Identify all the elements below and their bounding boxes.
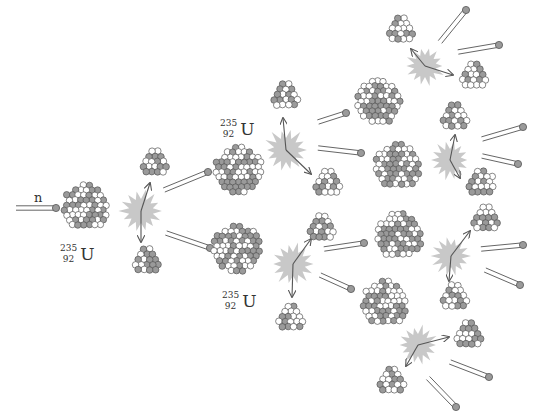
uranium-nucleus-u-g3-3 [375,211,424,258]
fission-fragment-11 [440,282,470,310]
uranium-nucleus-u-upper [213,144,264,195]
fission-flash-3 [406,49,443,86]
neutron-label: n [34,190,42,205]
fission-fragment-4 [307,213,336,241]
neutron-5 [324,239,368,251]
neutron-1 [163,168,211,192]
fission-fragment-12 [454,320,484,348]
neutron-8 [458,41,503,54]
neutron-3 [317,109,349,124]
fission-fragment-2 [271,81,301,109]
isotope-label-u-lower: 235 92 U [222,290,257,312]
atomic-number: 92 [220,129,237,140]
fission-fragment-9 [466,168,496,195]
fragment-arrow-group [141,49,470,366]
element-symbol: U [242,293,256,310]
neutron-7 [438,6,469,43]
uranium-nucleus-u-lower [211,223,263,274]
neutron-4 [318,146,365,157]
atomic-number: 92 [60,254,77,265]
fission-fragment-5 [276,303,306,330]
mass-number: 235 [60,243,77,254]
neutron-14 [426,376,459,410]
uranium-nucleus-u-g3-2 [373,141,421,187]
isotope-label-u-initial: 235 92 U [60,243,95,265]
fission-fragment-6 [386,15,415,42]
element-symbol: U [240,121,254,138]
fission-fragment-7 [459,61,488,88]
fission-fragment-3 [313,168,343,195]
neutron-9 [481,123,526,141]
fission-flash-4 [431,142,467,181]
element-symbol: U [80,246,94,263]
neutron-13 [449,360,492,381]
isotope-label-u-upper: 235 92 U [220,118,255,140]
fission-chain-diagram [0,0,536,414]
neutron-12 [484,268,523,289]
fission-fragment-0 [140,148,169,175]
neutron-0 [16,204,60,211]
neutron-6 [319,273,355,293]
uranium-nucleus-u-initial [61,182,109,229]
atomic-number: 92 [222,301,239,312]
fission-fragment-13 [377,366,407,393]
neutron-2 [165,231,213,252]
neutron-10 [482,154,522,168]
fission-fragment-8 [440,102,470,130]
mass-number: 235 [220,118,237,129]
fission-fragment-1 [132,246,161,274]
uranium-nucleus-u-g3-4 [360,278,408,324]
fission-flash-0 [118,189,161,231]
mass-number: 235 [222,290,239,301]
neutron-11 [481,241,527,251]
fission-fragment-10 [471,204,501,231]
uranium-nucleus-u-g3-1 [355,78,403,125]
